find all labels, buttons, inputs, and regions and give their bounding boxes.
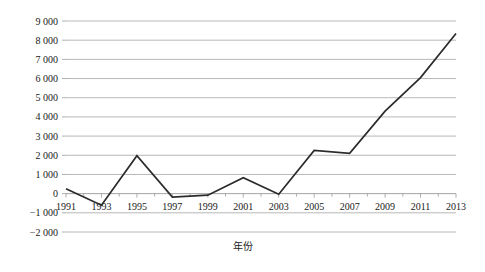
x-tick-label: 2009 — [375, 201, 395, 212]
x-axis-tick-marks — [66, 194, 456, 198]
x-tick-label: 2003 — [269, 201, 289, 212]
y-tick-label: −2 000 — [30, 227, 58, 238]
x-tick-label: 1995 — [127, 201, 147, 212]
x-axis-title: 年份 — [0, 238, 485, 253]
x-axis-tick-labels: 1991199319951997199920012003200520072009… — [56, 201, 466, 212]
y-tick-label: 9 000 — [36, 16, 59, 27]
y-axis-tick-labels: 9 0008 0007 0006 0005 0004 0003 0002 000… — [30, 16, 58, 238]
line-chart-plot: 9 0008 0007 0006 0005 0004 0003 0002 000… — [0, 0, 485, 272]
y-tick-label: 3 000 — [36, 131, 59, 142]
y-tick-label: −1 000 — [30, 207, 58, 218]
x-tick-label: 2011 — [411, 201, 431, 212]
x-tick-label: 2005 — [304, 201, 324, 212]
x-tick-label: 2001 — [233, 201, 253, 212]
chart-figure: 粮食净进口量/万吨 9 0008 0007 0006 0005 0004 000… — [0, 0, 485, 272]
y-tick-label: 5 000 — [36, 92, 59, 103]
x-tick-label: 2007 — [340, 201, 360, 212]
y-tick-label: 8 000 — [36, 35, 59, 46]
y-tick-label: 6 000 — [36, 73, 59, 84]
x-tick-label: 1991 — [56, 201, 76, 212]
y-tick-label: 7 000 — [36, 54, 59, 65]
y-tick-label: 1 000 — [36, 169, 59, 180]
x-axis-title-text: 年份 — [233, 241, 253, 252]
y-tick-label: 0 — [53, 188, 58, 199]
y-tick-label: 4 000 — [36, 111, 59, 122]
gridlines — [62, 21, 456, 232]
x-tick-label: 1999 — [198, 201, 218, 212]
y-tick-label: 2 000 — [36, 150, 59, 161]
x-tick-label: 1997 — [162, 201, 182, 212]
x-tick-label: 2013 — [446, 201, 466, 212]
